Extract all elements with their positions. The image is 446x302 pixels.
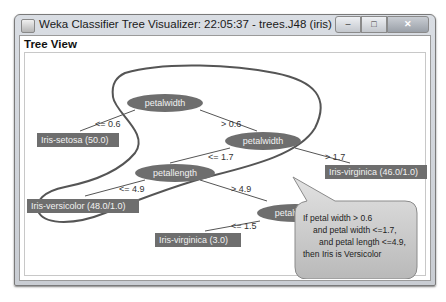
tree-node-root[interactable]: petalwidth: [127, 94, 203, 112]
annotation-callout: If petal width > 0.6 and petal width <=1…: [293, 177, 417, 279]
edge-label: > 1.7: [325, 152, 345, 162]
tree-node[interactable]: petallength: [135, 164, 215, 182]
edge-label: > 4.9: [231, 184, 251, 194]
maximize-button[interactable]: □: [361, 16, 387, 33]
close-button[interactable]: ✕: [387, 16, 429, 33]
tree-leaf[interactable]: Iris-setosa (50.0): [37, 133, 119, 147]
window-title: Weka Classifier Tree Visualizer: 22:05:3…: [39, 18, 332, 30]
svg-text:and petal length <=4.9,: and petal length <=4.9,: [319, 237, 406, 247]
tree-node[interactable]: petalwidth: [225, 132, 301, 150]
tree-leaf[interactable]: Iris-virginica (46.0/1.0): [325, 165, 427, 179]
svg-text:petallength: petallength: [153, 168, 197, 178]
edge-label: > 0.6: [221, 119, 241, 129]
svg-text:Iris-setosa (50.0): Iris-setosa (50.0): [41, 135, 109, 145]
tree-svg: <= 0.6 > 0.6 <= 1.7 > 1.7 <= 4.9 > 4.9 <…: [25, 53, 427, 279]
weka-tree-visualizer-window: Weka Classifier Tree Visualizer: 22:05:3…: [14, 14, 436, 286]
edge-label: <= 4.9: [119, 184, 145, 194]
svg-text:then Iris is Versicolor: then Iris is Versicolor: [303, 249, 382, 259]
svg-text:petalwidth: petalwidth: [145, 98, 186, 108]
tree-leaf[interactable]: Iris-virginica (3.0): [155, 233, 241, 247]
svg-text:Iris-virginica (46.0/1.0): Iris-virginica (46.0/1.0): [329, 167, 418, 177]
edge-label: <= 1.5: [231, 221, 257, 231]
edge-label: <= 0.6: [95, 119, 121, 129]
svg-text:petalwidth: petalwidth: [243, 136, 284, 146]
java-app-icon: [21, 19, 35, 33]
title-bar[interactable]: Weka Classifier Tree Visualizer: 22:05:3…: [15, 15, 435, 35]
minimize-button[interactable]: –: [335, 16, 361, 33]
edge-label: <= 1.7: [208, 152, 234, 162]
tree-leaf[interactable]: Iris-versicolor (48.0/1.0): [27, 199, 139, 213]
window-controls: – □ ✕: [335, 16, 429, 32]
svg-text:Iris-versicolor (48.0/1.0): Iris-versicolor (48.0/1.0): [31, 201, 126, 211]
panel-title: Tree View: [24, 38, 77, 50]
tree-canvas[interactable]: <= 0.6 > 0.6 <= 1.7 > 1.7 <= 4.9 > 4.9 <…: [24, 52, 426, 276]
svg-text:Iris-virginica (3.0): Iris-virginica (3.0): [159, 235, 228, 245]
client-area: Tree View <= 0.6 > 0.6 <= 1.7 > 1.7 <= 4…: [19, 35, 431, 281]
svg-text:and petal width <=1.7,: and petal width <=1.7,: [313, 225, 397, 235]
svg-text:If petal width > 0.6: If petal width > 0.6: [303, 213, 372, 223]
